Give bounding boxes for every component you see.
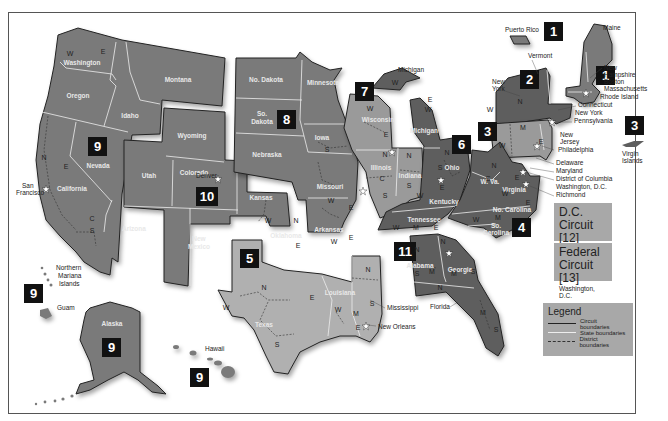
svg-text:W: W (67, 50, 74, 57)
svg-text:S: S (494, 326, 499, 333)
svg-text:W: W (331, 238, 338, 245)
callout-delaware: Delaware (556, 159, 584, 166)
dashed-line-icon (548, 341, 575, 342)
label-minnesota: Minnesota (307, 79, 340, 86)
circuit-badge-3-vi[interactable]: 3 (625, 116, 644, 135)
guam-shape[interactable] (40, 308, 52, 319)
svg-text:S: S (486, 175, 491, 182)
circuit-badge-9-hi[interactable]: 9 (190, 368, 209, 387)
label-idaho: Idaho (121, 112, 138, 119)
svg-text:1: 1 (550, 24, 557, 39)
svg-text:10: 10 (200, 189, 214, 204)
star-icon-st-louis (359, 187, 367, 195)
light-line-icon (548, 332, 576, 333)
svg-text:E: E (101, 48, 106, 55)
circuit-badge-4[interactable]: 4 (512, 218, 531, 237)
circuit-badge-7[interactable]: 7 (355, 82, 374, 101)
circuit-badge-2[interactable]: 2 (520, 70, 539, 89)
label-iowa: Iowa (315, 134, 330, 141)
circuit-badge-9-ak[interactable]: 9 (102, 338, 121, 357)
label-oklahoma: Oklahoma (270, 232, 302, 239)
label-michigan: Michigan (410, 127, 438, 135)
svg-text:E: E (296, 242, 301, 249)
svg-text:5: 5 (246, 251, 253, 266)
northern-mariana-islands-shape (41, 267, 53, 287)
svg-text:E: E (356, 324, 361, 331)
svg-text:E: E (349, 234, 354, 241)
callout-san-francisco-2: Francisco (16, 189, 45, 196)
callout-new-jersey-2: Jersey (560, 138, 580, 146)
svg-text:E: E (526, 199, 531, 206)
label-wyoming: Wyoming (177, 132, 206, 140)
svg-text:N: N (406, 152, 411, 159)
callout-mississippi: Mississippi (387, 304, 418, 312)
label-washington: Washington (64, 59, 101, 67)
svg-text:E: E (515, 174, 520, 181)
svg-text:S: S (407, 182, 412, 189)
svg-text:W: W (499, 142, 506, 149)
callout-massachusetts: Massachusetts (604, 85, 648, 92)
callout-denver: Denver (196, 172, 218, 179)
svg-text:W: W (335, 306, 342, 313)
svg-text:W: W (328, 197, 335, 204)
svg-text:M: M (451, 270, 457, 277)
svg-text:M: M (495, 214, 501, 221)
callout-new-jersey-1: New (560, 131, 573, 138)
svg-text:3: 3 (484, 124, 491, 139)
federal-circuit-seat: Washington, D.C. (559, 285, 607, 299)
circuit-badge-11[interactable]: 11 (394, 242, 416, 261)
svg-text:W: W (223, 304, 230, 311)
callout-puerto-rico: Puerto Rico (505, 26, 539, 33)
legend-item-district: District boundaries (548, 337, 628, 346)
label-new-mexico: New (192, 235, 206, 242)
circuit-badge-5[interactable]: 5 (240, 249, 259, 268)
circuit-badge-9-guam[interactable]: 9 (24, 284, 43, 303)
svg-text:9: 9 (196, 370, 203, 385)
label-ohio: Ohio (445, 164, 460, 171)
svg-text:E: E (440, 184, 445, 191)
callout-florida: Florida (430, 303, 450, 310)
svg-text:N: N (440, 238, 445, 245)
callout-new-york-state-1: New (492, 78, 505, 85)
svg-text:N: N (437, 284, 442, 291)
callout-district-of-columbia: District of Columbia (556, 175, 613, 182)
svg-text:8: 8 (283, 112, 290, 127)
federal-circuit-box[interactable]: Federal Circuit [13] Washington, D.C. (554, 243, 612, 281)
svg-text:W: W (502, 190, 509, 197)
label-so-dakota: So. (257, 110, 267, 117)
callout-rhode-island: Rhode Island (600, 93, 639, 100)
label-new-mexico-2: Mexico (188, 243, 210, 250)
circuit-11-region[interactable] (410, 234, 504, 356)
circuit-badge-3[interactable]: 3 (478, 122, 497, 141)
callout-new-york-state-2: York (492, 85, 506, 92)
label-so-dakota-2: Dakota (251, 118, 273, 125)
label-nebraska: Nebraska (252, 151, 282, 158)
circuit-badge-9-nv[interactable]: 9 (88, 137, 107, 156)
label-so-carolina: So. (491, 222, 501, 229)
callout-connecticut: Connecticut (578, 101, 613, 108)
callout-michigan: Michigan (398, 66, 424, 74)
circuit-badge-10[interactable]: 10 (196, 187, 218, 206)
svg-text:W: W (393, 224, 400, 231)
label-arkansas: Arkansas (314, 226, 344, 233)
svg-text:M: M (413, 224, 419, 231)
legend-item-circuit: Circuit boundaries (548, 319, 628, 328)
callout-new-orleans: New Orleans (378, 323, 416, 330)
svg-text:N: N (414, 246, 419, 253)
callout-hawaii: Hawaii (205, 345, 225, 352)
label-missouri: Missouri (317, 183, 344, 190)
label-texas: Texas (255, 321, 273, 328)
label-no-carolina: No. Carolina (493, 206, 532, 213)
circuit-badge-6[interactable]: 6 (452, 135, 471, 154)
dc-circuit-box[interactable]: D.C. Circuit [12] Washington, D.C. (554, 203, 612, 241)
svg-text:W: W (367, 105, 374, 112)
svg-text:W: W (265, 217, 272, 224)
virgin-islands-shape (622, 141, 644, 147)
label-no-dakota: No. Dakota (249, 76, 283, 83)
federal-circuit-title-2: Circuit [13] (559, 259, 607, 285)
circuit-badge-1-pr[interactable]: 1 (544, 22, 563, 41)
callout-new-york-city: New York (575, 109, 603, 116)
circuit-badge-8[interactable]: 8 (277, 110, 296, 129)
svg-text:W: W (417, 192, 424, 199)
svg-text:4: 4 (518, 220, 526, 235)
